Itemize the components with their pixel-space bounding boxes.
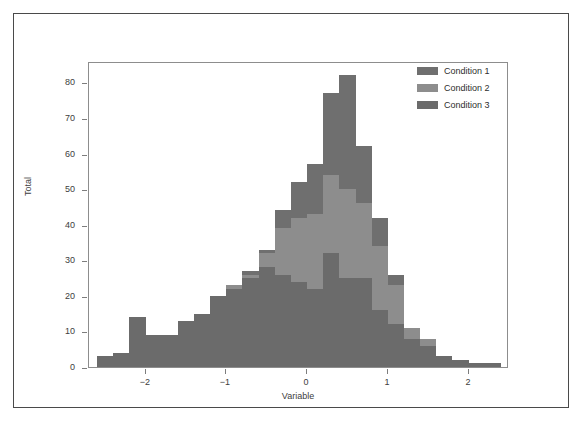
histogram-bar-segment <box>242 278 258 367</box>
histogram-bar-segment <box>259 253 275 267</box>
legend-swatch-icon <box>417 101 438 109</box>
histogram-bar-segment <box>291 182 307 218</box>
histogram-bar <box>307 164 323 367</box>
histogram-bar <box>242 271 258 367</box>
y-axis-tick <box>82 119 87 120</box>
histogram-bar-segment <box>275 275 291 368</box>
y-axis-tick <box>82 226 87 227</box>
histogram-bar <box>323 93 339 367</box>
histogram-bar-segment <box>388 324 404 367</box>
histogram-bar-segment <box>226 289 242 367</box>
histogram-bar <box>372 218 388 367</box>
histogram-bar <box>356 146 372 367</box>
histogram-bar <box>485 363 501 367</box>
histogram-bar-segment <box>275 210 291 228</box>
histogram-bar-segment <box>404 339 420 367</box>
histogram-bar-segment <box>226 285 242 289</box>
y-axis-tick-label: 30 <box>35 256 75 265</box>
y-axis-tick-label: 60 <box>35 150 75 159</box>
y-axis-tick <box>82 261 87 262</box>
histogram-bar-segment <box>436 356 452 367</box>
histogram-bar <box>469 363 485 367</box>
histogram-bar-segment <box>339 278 355 367</box>
y-axis-tick-label: 70 <box>35 114 75 123</box>
y-axis-tick <box>82 368 87 369</box>
histogram-bar-segment <box>259 267 275 367</box>
x-axis-tick <box>468 369 469 374</box>
histogram-bar-segment <box>146 335 162 367</box>
histogram-bar-segment <box>307 214 323 289</box>
histogram-bar-segment <box>162 335 178 367</box>
histogram-bar-segment <box>129 317 145 367</box>
histogram-bar-segment <box>339 189 355 278</box>
histogram-bar-segment <box>356 278 372 367</box>
legend-item[interactable]: Condition 1 <box>417 64 517 79</box>
histogram-bar <box>162 335 178 367</box>
y-axis-tick-label: 20 <box>35 292 75 301</box>
histogram-bar-segment <box>307 164 323 214</box>
histogram-bar-segment <box>323 175 339 253</box>
x-axis-tick-label: −1 <box>205 378 245 387</box>
histogram-bar-segment <box>97 356 113 367</box>
x-axis-tick-label: 1 <box>367 378 407 387</box>
legend-swatch-icon <box>417 67 438 75</box>
histogram-bar <box>404 328 420 367</box>
histogram-bar-segment <box>452 360 468 367</box>
legend: Condition 1Condition 2Condition 3 <box>417 64 517 115</box>
histogram-bar-segment <box>242 271 258 275</box>
x-axis-tick <box>225 369 226 374</box>
figure-canvas: Total 01020304050607080 −2−1012 Variable… <box>0 0 583 422</box>
histogram-bar-segment <box>291 218 307 282</box>
y-axis-tick-label: 40 <box>35 221 75 230</box>
histogram-bar-segment <box>275 228 291 274</box>
x-axis-tick-label: −2 <box>125 378 165 387</box>
histogram-bar-segment <box>420 339 436 346</box>
y-axis-tick <box>82 297 87 298</box>
histogram-bar <box>291 182 307 367</box>
histogram-bar-segment <box>323 253 339 367</box>
histogram-bar-segment <box>485 363 501 367</box>
histogram-bar <box>420 339 436 367</box>
histogram-bar-segment <box>178 321 194 367</box>
histogram-bar <box>178 321 194 367</box>
y-axis-tick-label: 80 <box>35 78 75 87</box>
histogram-bar <box>97 356 113 367</box>
histogram-bar <box>226 285 242 367</box>
histogram-bar-segment <box>291 282 307 367</box>
y-axis-tick <box>82 190 87 191</box>
histogram-bar-segment <box>469 363 485 367</box>
x-axis-tick-label: 0 <box>286 378 326 387</box>
legend-item[interactable]: Condition 2 <box>417 81 517 96</box>
histogram-bar <box>259 250 275 367</box>
x-axis-tick-label: 2 <box>448 378 488 387</box>
y-axis-label: Total <box>24 177 33 196</box>
histogram-bar <box>210 296 226 367</box>
legend-item[interactable]: Condition 3 <box>417 98 517 113</box>
x-axis-label: Variable <box>88 392 508 401</box>
histogram-bar-segment <box>339 75 355 189</box>
histogram-bar-segment <box>420 346 436 367</box>
legend-item-label: Condition 3 <box>444 98 490 112</box>
histogram-bar-segment <box>113 353 129 367</box>
legend-item-label: Condition 1 <box>444 64 490 78</box>
x-axis-tick <box>306 369 307 374</box>
y-axis-tick-label: 0 <box>35 363 75 372</box>
y-axis-tick-label: 10 <box>35 327 75 336</box>
legend-item-label: Condition 2 <box>444 81 490 95</box>
histogram-bar-segment <box>372 246 388 310</box>
y-axis-tick <box>82 83 87 84</box>
histogram-bar-segment <box>388 285 404 324</box>
histogram-bar-segment <box>307 289 323 367</box>
histogram-bar-segment <box>259 250 275 254</box>
histogram-bar <box>452 360 468 367</box>
histogram-bar-segment <box>242 275 258 279</box>
legend-swatch-icon <box>417 84 438 92</box>
histogram-bar <box>436 356 452 367</box>
histogram-bar <box>113 353 129 367</box>
x-axis-tick <box>387 369 388 374</box>
histogram-bar-segment <box>356 203 372 278</box>
y-axis-tick <box>82 332 87 333</box>
histogram-bar <box>194 314 210 367</box>
histogram-bar-segment <box>372 218 388 246</box>
y-axis-tick <box>82 155 87 156</box>
